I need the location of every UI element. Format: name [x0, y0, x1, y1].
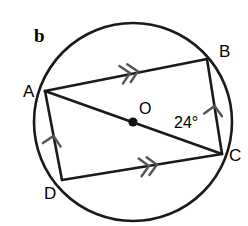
parallel-marker-ab-double-chevron	[119, 63, 139, 84]
vertex-label-a: A	[23, 83, 34, 100]
vertex-label-b: B	[219, 43, 230, 60]
segment-ab	[45, 59, 207, 91]
centre-label-o: O	[139, 101, 151, 117]
centre-point-dot	[128, 117, 137, 126]
part-label-b: b	[34, 26, 45, 45]
parallel-marker-bc-single-chevron	[204, 105, 223, 117]
geometry-figure: b A B C D O 24°	[0, 0, 248, 226]
parallel-marker-ad-single-chevron	[43, 134, 62, 146]
vertex-label-c: C	[229, 147, 241, 164]
vertex-label-d: D	[44, 185, 56, 202]
angle-label-24-degrees: 24°	[174, 115, 198, 131]
